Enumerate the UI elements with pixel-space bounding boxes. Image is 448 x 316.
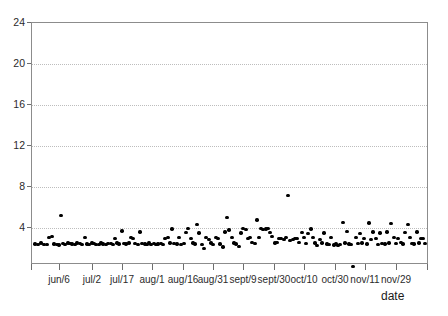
data-point [191,241,194,244]
x-tick-label: aug/31 [198,274,229,285]
x-axis-title: date [381,289,404,303]
data-point [385,230,388,233]
data-point [136,243,139,246]
data-point [211,243,214,246]
data-point [329,236,332,239]
x-tick-mark [59,264,60,270]
data-point [140,242,143,245]
data-point [277,237,280,240]
x-tick-mark [274,264,275,270]
data-point [66,241,69,244]
data-point [313,241,316,244]
data-point [354,236,357,239]
gridline-y-20 [32,64,427,65]
data-point [104,243,107,246]
data-point [318,238,321,241]
x-tick-mark [122,264,123,270]
data-point [306,232,309,235]
data-point [304,242,307,245]
data-point [85,242,88,245]
x-tick-mark [92,264,93,270]
data-point [270,235,273,238]
data-point [253,242,256,245]
y-tick-label: 24 [1,17,25,27]
data-point [351,265,354,268]
x-tick-label: sept/30 [258,274,291,285]
data-point [101,242,104,245]
data-point [189,237,192,240]
data-point [257,236,260,239]
scatter-chart: 4812162024 jun/6jul/2jul/17aug/1aug/16au… [0,0,448,316]
x-tick-mark-end [31,264,32,270]
data-point [47,236,50,239]
data-point [419,237,422,240]
data-point [59,214,62,217]
data-point [273,241,276,244]
data-point [311,236,314,239]
data-point [78,242,81,245]
y-tick-label: 12 [1,140,25,150]
data-point [248,236,251,239]
data-point [371,230,374,233]
data-point [392,236,395,239]
x-tick-mark [304,264,305,270]
data-point [122,242,125,245]
x-tick-label: jul/17 [110,274,134,285]
data-point [63,243,66,246]
data-point [300,231,303,234]
x-tick-label: nov/11 [350,274,379,285]
data-point [293,237,296,240]
gridline-y-16 [32,105,427,106]
data-point [403,231,406,234]
data-point [327,243,330,246]
data-point [246,237,249,240]
data-point [182,242,185,245]
data-point [389,222,392,225]
x-tick-label: aug/16 [168,274,199,285]
data-point [127,241,130,244]
data-point [36,243,39,246]
data-point [80,243,83,246]
x-tick-mark [183,264,184,270]
data-point [380,242,383,245]
y-tick-label: 4 [1,222,25,232]
data-point [268,231,271,234]
x-tick-mark [213,264,214,270]
data-point [90,241,93,244]
data-point [87,243,90,246]
y-tick-label: 16 [1,99,25,109]
data-point [124,242,127,245]
data-point [417,241,420,244]
x-tick-mark [396,264,397,270]
x-tick-mark [152,264,153,270]
x-tick-mark [243,264,244,270]
data-point [99,241,102,244]
data-point [177,236,180,239]
data-point [214,236,217,239]
data-point [147,241,150,244]
data-point [83,236,86,239]
data-point [347,242,350,245]
data-point [367,221,370,224]
data-point [288,239,291,242]
data-point [286,194,289,197]
data-point [374,237,377,240]
data-point [92,242,95,245]
data-point [61,242,64,245]
data-point [358,232,361,235]
x-tick-mark-end [427,264,428,270]
data-point [109,242,112,245]
data-point [408,236,411,239]
data-point [356,242,359,245]
data-point [209,241,212,244]
data-point [396,237,399,240]
data-point [117,242,120,245]
data-point [406,223,409,226]
data-point [237,245,240,248]
data-point [223,230,226,233]
data-point [39,241,42,244]
data-point [338,243,341,246]
data-point [415,230,418,233]
data-point [343,241,346,244]
data-point [376,243,379,246]
